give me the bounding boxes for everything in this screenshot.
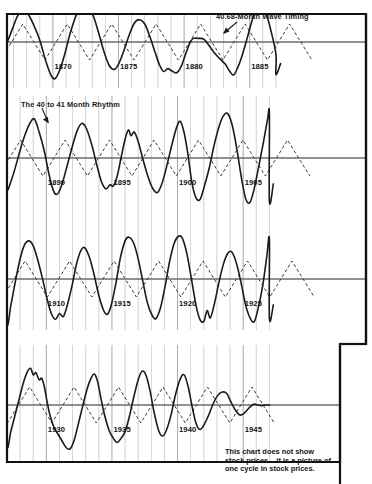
svg-text:1905: 1905: [245, 178, 263, 187]
svg-text:1890: 1890: [48, 178, 65, 187]
svg-text:1935: 1935: [113, 425, 131, 434]
svg-text:1910: 1910: [48, 299, 65, 308]
svg-text:1920: 1920: [179, 299, 196, 308]
svg-text:1875: 1875: [120, 62, 138, 71]
svg-text:1895: 1895: [113, 178, 131, 187]
svg-text:1930: 1930: [48, 425, 65, 434]
year-label-layer: 1870187518801885189018951900190519101915…: [48, 62, 269, 434]
svg-text:1880: 1880: [186, 62, 203, 71]
chart-figure: 1870187518801885189018951900190519101915…: [0, 0, 372, 484]
svg-text:1925: 1925: [245, 299, 263, 308]
svg-text:1870: 1870: [54, 62, 71, 71]
rhythm-series: [1, 2, 280, 449]
svg-text:1915: 1915: [113, 299, 131, 308]
grid-layer: [14, 14, 276, 462]
chart-caption: This chart does not show stock prices – …: [225, 448, 335, 474]
wave-timing-series: [0, 24, 314, 423]
zero-line-layer: [7, 42, 366, 405]
svg-text:1940: 1940: [179, 425, 196, 434]
annotation-rhythm: The 40 to 41 Month Rhythm: [21, 100, 120, 109]
svg-text:1885: 1885: [251, 62, 269, 71]
svg-text:1945: 1945: [245, 425, 263, 434]
chart-canvas: 1870187518801885189018951900190519101915…: [0, 0, 372, 484]
svg-text:1900: 1900: [179, 178, 196, 187]
annotation-wave-timing: 40.68-Month Wave Timing: [216, 12, 309, 21]
